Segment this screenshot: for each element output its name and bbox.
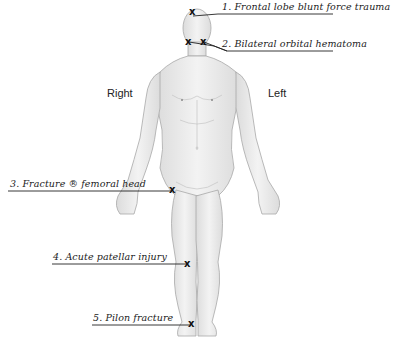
- injury-marker-5: x: [188, 319, 194, 329]
- annotation-3: 3. Fracture ® femoral head: [10, 178, 146, 189]
- injury-marker-1: x: [189, 7, 195, 17]
- annotation-5: 5. Pilon fracture: [93, 312, 173, 323]
- injury-marker-3: x: [169, 185, 175, 195]
- body-chart: x x x x x x Right Left 1. Frontal lobe b…: [0, 0, 416, 353]
- annotation-2: 2. Bilateral orbital hematoma: [222, 38, 367, 49]
- injury-marker-2b: x: [200, 37, 206, 47]
- annotation-1: 1. Frontal lobe blunt force trauma: [222, 1, 390, 12]
- injury-marker-4: x: [184, 259, 190, 269]
- annotation-4: 4. Acute patellar injury: [53, 251, 167, 262]
- label-right: Right: [107, 87, 133, 99]
- human-figure-illustration: [0, 0, 416, 353]
- label-left: Left: [268, 87, 286, 99]
- injury-marker-2a: x: [185, 37, 191, 47]
- leader-line-1: [193, 14, 333, 16]
